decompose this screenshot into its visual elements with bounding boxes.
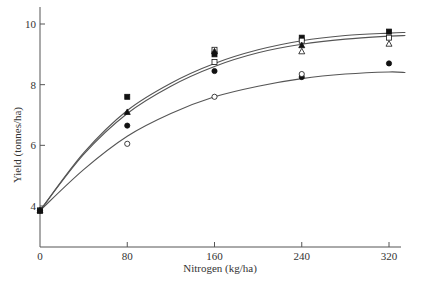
data-points (37, 29, 392, 213)
x-tick-label: 80 (122, 250, 134, 262)
open-circle-marker (299, 71, 304, 76)
x-tick-label: 240 (294, 250, 311, 262)
filled-circle-marker (212, 68, 217, 73)
y-tick-label: 8 (31, 79, 37, 91)
y-tick-label: 4 (31, 200, 37, 212)
y-tick-label: 10 (25, 18, 37, 30)
x-tick-label: 0 (37, 250, 43, 262)
axes: 08016024032046810 (25, 7, 401, 262)
yield-chart: 08016024032046810 Nitrogen (kg/ha) Yield… (0, 0, 425, 284)
x-tick-label: 160 (206, 250, 223, 262)
fit-curves (40, 32, 405, 210)
filled-circle-marker (386, 61, 391, 66)
filled-circle-marker (125, 123, 130, 128)
open-circle-marker (212, 94, 217, 99)
x-tick-label: 320 (381, 250, 398, 262)
open-circle-marker (125, 141, 130, 146)
upper-fit-curve (40, 32, 405, 210)
x-axis-label: Nitrogen (kg/ha) (183, 262, 257, 275)
filled-square-marker (387, 29, 392, 34)
filled-circle-marker (37, 208, 42, 213)
open-square-marker (387, 35, 392, 40)
middle-fit-curve (40, 36, 405, 211)
filled-square-marker (125, 94, 130, 99)
open-triangle-marker (386, 41, 392, 47)
y-axis-label: Yield (tonnes/ha) (11, 107, 24, 183)
open-triangle-marker (299, 48, 305, 54)
open-square-marker (212, 59, 217, 64)
y-tick-label: 6 (31, 139, 37, 151)
